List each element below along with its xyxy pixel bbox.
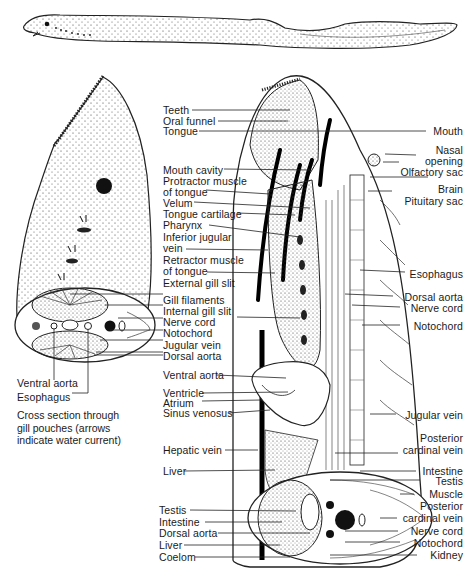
label-ventral-aorta: Ventral aorta [163,369,224,381]
label-pituitary-sac: Pituitary sac [405,195,464,207]
label-mouth: Mouth [433,125,463,137]
label-inferior-jugular-2: vein [163,242,183,254]
label-posterior-cardinal-2: Posterior [420,500,463,512]
label-pharynx: Pharynx [163,219,202,231]
label-notochord-bottom: Notochord [414,537,463,549]
label-jugular-vein: Jugular vein [405,409,463,421]
label-posterior-cardinal-vein-2: cardinal vein [403,512,463,524]
label-retractor-muscle-2: of tongue [163,265,208,277]
label-nerve-cord-bottom: Nerve cord [411,525,463,537]
label-testis: Testis [436,475,463,487]
gill-cross-section-drawing [15,76,163,393]
label-dorsal-aorta-left: Dorsal aorta [163,350,221,362]
sagittal-section-drawing [233,76,432,567]
label-nerve-cord: Nerve cord [411,302,463,314]
label-brain: Brain [438,183,463,195]
label-liver: Liver [163,465,186,477]
label-notochord: Notochord [414,320,463,332]
label-olfactory-sac: Olfactory sac [400,166,463,178]
label-posterior-cardinal: Posterior [420,432,463,444]
label-dorsal-aorta-bottom: Dorsal aorta [159,527,217,539]
label-hepatic-vein: Hepatic vein [163,444,222,456]
label-coelom: Coelom [159,551,196,563]
lamprey-whole-body [24,15,457,49]
label-kidney: Kidney [430,549,463,561]
label-tongue: Tongue [163,125,198,137]
label-testis-bottom: Testis [159,504,186,516]
label-liver-bottom: Liver [159,539,182,551]
label-muscle: Muscle [429,488,463,500]
label-external-gill-slit: External gill slit [163,277,235,289]
label-ventral-aorta-gill: Ventral aorta [17,377,78,389]
label-sinus-venosus: Sinus venosus [163,407,233,419]
figure-caption: Cross section through gill pouches (arro… [17,409,121,447]
label-notochord-left: Notochord [163,327,212,339]
label-esophagus: Esophagus [410,268,463,280]
label-posterior-cardinal-vein: cardinal vein [403,444,463,456]
lamprey-anatomy-drawing [0,0,471,577]
label-esophagus-gill: Esophagus [17,391,70,403]
